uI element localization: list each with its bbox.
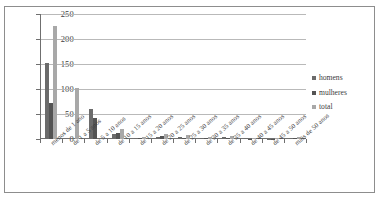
x-tick-mark	[306, 139, 307, 143]
chart-screenshot: 050100150200250 menos de 1 anode 1 a 5 a…	[0, 0, 380, 200]
legend-label: mulheres	[319, 89, 347, 97]
legend-item: total	[312, 103, 374, 111]
legend-label: homens	[319, 74, 343, 82]
legend-swatch-mulheres	[312, 91, 316, 95]
legend-label: total	[319, 103, 333, 111]
legend-item: mulheres	[312, 89, 374, 97]
bar-group	[40, 14, 62, 139]
bar-total	[53, 26, 57, 139]
legend-item: homens	[312, 74, 374, 82]
chart-legend: homensmulherestotal	[312, 74, 374, 118]
x-axis-category-labels: menos de 1 anode 1 a 5 anosde 5 a 10 ano…	[40, 141, 306, 197]
legend-swatch-homens	[312, 76, 316, 80]
legend-swatch-total	[312, 105, 316, 109]
